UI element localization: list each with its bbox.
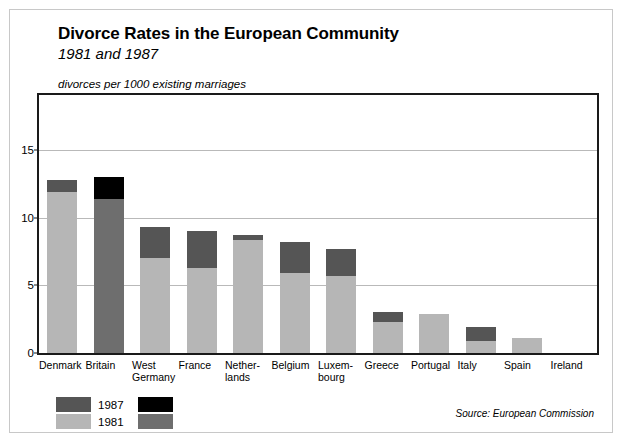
bar-slot[interactable] [318, 95, 365, 353]
bar[interactable] [187, 231, 217, 353]
x-axis-label: West Germany [132, 359, 179, 383]
source-note: Source: European Commission [456, 408, 594, 419]
bar[interactable] [466, 327, 496, 353]
x-axis-label: Italy [458, 359, 505, 371]
bar[interactable] [280, 242, 310, 353]
x-axis-label: Britain [86, 359, 133, 371]
x-axis-label: Ireland [551, 359, 598, 371]
x-axis-label: Greece [365, 359, 412, 371]
chart-subtitle: 1981 and 1987 [58, 45, 578, 63]
bar-segment-1981 [466, 341, 496, 353]
y-tick-label: 5 [28, 279, 34, 291]
bar-segment-1981 [280, 273, 310, 353]
bar-segment-1987 [47, 180, 77, 192]
legend-label: 1987 [98, 399, 138, 411]
bar-segment-1981 [187, 268, 217, 353]
bar-slot[interactable] [504, 95, 551, 353]
bar-segment-1981 [512, 338, 542, 353]
plot-area: 051015 [37, 93, 599, 355]
bar-segment-1987 [94, 177, 124, 199]
x-axis-labels: DenmarkBritainWest GermanyFranceNether- … [37, 359, 599, 389]
bar[interactable] [419, 314, 449, 353]
bar[interactable] [47, 180, 77, 353]
x-axis-label: Nether- lands [225, 359, 272, 383]
legend-item[interactable]: 1981 [56, 414, 173, 429]
bar-slot[interactable] [411, 95, 458, 353]
bar-slot[interactable] [132, 95, 179, 353]
bar-slot[interactable] [365, 95, 412, 353]
legend-item[interactable]: 1987 [56, 397, 173, 412]
bar-segment-1987 [140, 227, 170, 258]
bar-segment-1981 [373, 322, 403, 353]
bar-slot[interactable] [225, 95, 272, 353]
bar-series [39, 95, 597, 353]
x-axis-label: Portugal [411, 359, 458, 371]
bar-slot[interactable] [39, 95, 86, 353]
chart-figure: Divorce Rates in the European Community … [9, 9, 613, 433]
y-tick-label: 15 [21, 144, 34, 156]
bar[interactable] [140, 227, 170, 353]
bar-segment-1981 [140, 258, 170, 353]
bar-segment-1981 [419, 314, 449, 353]
bar-segment-1981 [326, 276, 356, 353]
bar[interactable] [373, 312, 403, 353]
bar[interactable] [94, 177, 124, 353]
bar-slot[interactable] [272, 95, 319, 353]
bar-slot[interactable] [551, 95, 598, 353]
y-tick-label: 10 [21, 212, 34, 224]
legend-swatch-highlight [138, 414, 173, 429]
title-block: Divorce Rates in the European Community … [58, 24, 578, 63]
bar[interactable] [233, 235, 263, 353]
y-tick-label: 0 [28, 347, 34, 359]
bar-segment-1981 [233, 240, 263, 353]
legend-swatch [56, 414, 91, 429]
bar-segment-1987 [326, 249, 356, 276]
bar[interactable] [512, 338, 542, 353]
legend-swatch-highlight [138, 397, 173, 412]
bar-slot[interactable] [86, 95, 133, 353]
axis-units-label: divorces per 1000 existing marriages [58, 78, 246, 90]
x-axis-label: Denmark [39, 359, 86, 371]
bar-segment-1987 [466, 327, 496, 341]
x-axis-label: Belgium [272, 359, 319, 371]
x-axis-label: Spain [504, 359, 551, 371]
bar-segment-1987 [373, 312, 403, 321]
x-axis-label: Luxem- bourg [318, 359, 365, 383]
bar-segment-1981 [47, 192, 77, 353]
x-axis-label: France [179, 359, 226, 371]
plot-inner: 051015 [39, 95, 597, 353]
bar-slot[interactable] [458, 95, 505, 353]
page-title: Divorce Rates in the European Community [58, 24, 578, 44]
legend-swatch [56, 397, 91, 412]
bar-segment-1987 [187, 231, 217, 267]
bar-slot[interactable] [179, 95, 226, 353]
bar[interactable] [326, 249, 356, 353]
bar-segment-1987 [280, 242, 310, 273]
legend-label: 1981 [98, 416, 138, 428]
bar-segment-1981 [94, 199, 124, 353]
